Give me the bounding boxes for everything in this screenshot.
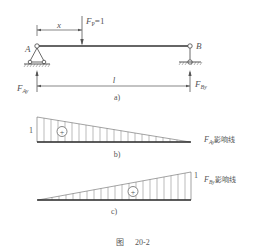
ordinate-c: 1 (194, 171, 198, 180)
sign-b: + (60, 128, 65, 137)
ordinate-b: 1 (29, 126, 33, 135)
reaction-b-label: FBy (194, 79, 207, 90)
caption-prefix: 图 (116, 238, 124, 247)
dim-x-arrow-right-icon (78, 29, 82, 31)
panel-a-beam-diagram: x FP=1 A B (16, 16, 207, 102)
dim-x-label: x (56, 20, 61, 30)
hinge-b-icon (188, 44, 192, 48)
dim-l-arrow-right-icon (186, 85, 190, 87)
dim-x-arrow-left-icon (37, 29, 41, 31)
figure-caption: 图 20-2 (116, 238, 150, 247)
panel-c-label: c) (111, 207, 118, 216)
reaction-b-arrow-head-icon (188, 70, 191, 76)
dim-l-label: l (113, 75, 116, 85)
support-b-label: B (196, 41, 202, 51)
influence-triangle-c (38, 172, 191, 200)
hinge-a-icon (35, 44, 39, 48)
support-a-label: A (24, 44, 31, 54)
title-c: FBy影响线 (203, 175, 236, 185)
title-b: FAy影响线 (203, 135, 235, 145)
sign-c: + (131, 188, 136, 197)
load-label: FP=1 (85, 16, 104, 27)
caption-number: 20-2 (135, 238, 150, 247)
dim-l-arrow-left-icon (37, 85, 41, 87)
load-arrow-head-icon (80, 39, 83, 46)
influence-line-figure: x FP=1 A B (0, 0, 265, 252)
panel-c-influence-line: + 1 FBy影响线 c) (37, 171, 236, 216)
reaction-a-arrow-head-icon (35, 70, 38, 76)
panel-b-influence-line: + 1 FAy影响线 b) (29, 117, 235, 159)
panel-a-label: a) (114, 93, 121, 102)
hatch-lines-c (52, 173, 185, 200)
panel-b-label: b) (114, 150, 121, 159)
reaction-a-label: FAy (16, 83, 29, 94)
